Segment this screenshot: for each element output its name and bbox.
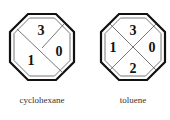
value-left: 1 — [28, 53, 35, 68]
value-top: 3 — [38, 23, 45, 38]
caption-cyclohexane: cyclohexane — [20, 95, 65, 105]
diagram-cyclohexane: 3 0 1 cyclohexane — [10, 14, 74, 105]
value-left: 1 — [110, 40, 117, 55]
value-right: 0 — [149, 40, 156, 55]
diagram-toluene: 3 0 1 2 toluene — [101, 14, 165, 105]
hazard-diagrams: 3 0 1 cyclohexane 3 0 1 2 toluene — [0, 0, 170, 120]
caption-toluene: toluene — [120, 95, 147, 105]
value-top: 3 — [130, 23, 137, 38]
value-right: 0 — [56, 44, 63, 59]
value-bottom: 2 — [130, 61, 137, 76]
